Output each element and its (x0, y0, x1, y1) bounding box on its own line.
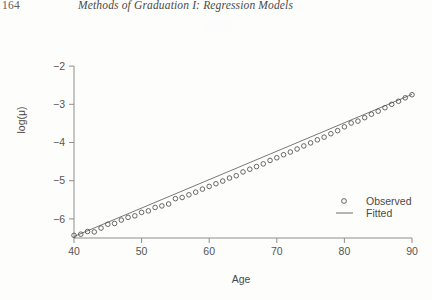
observed-data-point (133, 214, 138, 219)
y-axis-tick-label: −6 (53, 213, 65, 225)
y-axis-tick-label: −2 (53, 60, 65, 72)
observed-data-point (281, 152, 286, 157)
x-axis-tick-label: 60 (203, 245, 215, 257)
observed-data-point (119, 218, 124, 223)
x-axis-tick-label: 80 (339, 245, 351, 257)
observed-data-point (139, 210, 144, 215)
observed-data-point (356, 119, 361, 124)
observed-data-point (288, 150, 293, 155)
observed-data-point (349, 121, 354, 126)
observed-data-point (180, 195, 185, 200)
legend-marker-observed (342, 199, 347, 204)
fitted-line-layer (74, 94, 412, 236)
y-axis-tick-label: −3 (53, 98, 65, 110)
observed-data-point (275, 155, 280, 160)
observed-data-point (200, 187, 205, 192)
observed-data-point (92, 230, 97, 235)
book-page: 164 Methods of Graduation I: Regression … (0, 0, 432, 300)
observed-data-point (234, 173, 239, 178)
observed-data-point (302, 144, 307, 149)
observed-data-point (322, 135, 327, 140)
observed-data-point (362, 115, 367, 120)
x-axis: 405060708090 (68, 238, 418, 257)
observed-data-point (369, 112, 374, 117)
y-axis-tick-label: −5 (53, 174, 65, 186)
observed-data-point (166, 202, 171, 207)
observed-data-point (173, 196, 178, 201)
observed-data-point (295, 147, 300, 152)
observed-data-point (329, 131, 334, 136)
x-axis-title: Age (232, 273, 251, 285)
observed-data-point (187, 193, 192, 198)
observed-data-point (193, 190, 198, 195)
chart-legend: Observed Fitted (336, 195, 412, 219)
observed-data-point (146, 209, 151, 214)
observed-data-point (112, 221, 117, 226)
observed-data-point (315, 138, 320, 143)
observed-data-point (335, 128, 340, 133)
observed-data-point (126, 215, 131, 220)
observed-data-point (220, 179, 225, 184)
chart-svg: log(μ) Age −2−3−4−5−6 405060708090 Obser… (0, 0, 432, 300)
observed-data-point (308, 141, 313, 146)
x-axis-tick-label: 70 (271, 245, 283, 257)
observed-data-point (261, 162, 266, 167)
observed-data-point (160, 204, 165, 209)
x-axis-tick-label: 40 (68, 245, 80, 257)
y-axis: −2−3−4−5−6 (53, 60, 74, 238)
legend-label-observed: Observed (366, 195, 412, 207)
observed-data-point (214, 181, 219, 186)
observed-data-point (227, 176, 232, 181)
observed-data-point (207, 184, 212, 189)
fitted-line (74, 94, 412, 236)
observed-data-point (99, 226, 104, 231)
observed-data-point (254, 164, 259, 169)
observed-data-point (153, 205, 158, 210)
observed-data-point (241, 170, 246, 175)
observed-data-point (342, 125, 347, 130)
x-axis-tick-label: 90 (406, 245, 418, 257)
observed-data-point (247, 167, 252, 172)
y-axis-tick-label: −4 (53, 136, 65, 148)
regression-scatter-figure: log(μ) Age −2−3−4−5−6 405060708090 Obser… (0, 0, 432, 300)
y-axis-title: log(μ) (15, 106, 27, 133)
legend-label-fitted: Fitted (366, 207, 392, 219)
x-axis-tick-label: 50 (136, 245, 148, 257)
observed-data-point (376, 109, 381, 114)
observed-data-point (268, 158, 273, 163)
